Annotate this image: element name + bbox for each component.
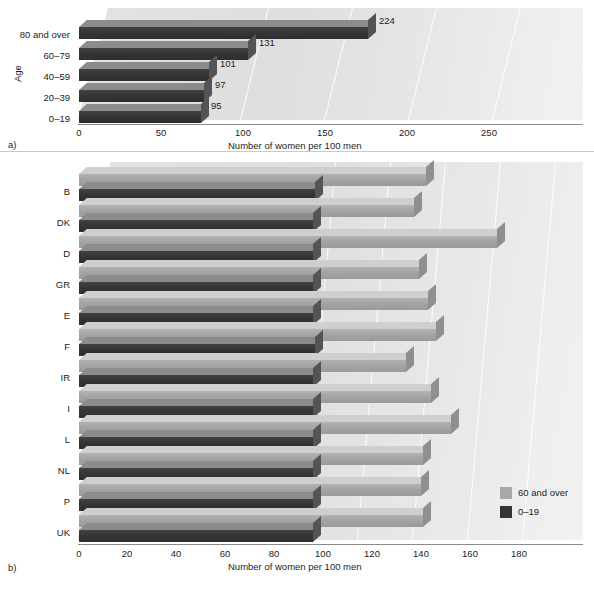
bar-top-face bbox=[79, 492, 321, 499]
panel-a-x-axis-title: Number of women per 100 men bbox=[228, 140, 362, 151]
chart-panel-b: B DK D GR E F IR I L NL P UK 60 and over… bbox=[0, 152, 594, 589]
bar-top-face bbox=[79, 523, 321, 530]
bar-80-and-over bbox=[79, 27, 368, 39]
bar-front-face bbox=[79, 90, 204, 102]
panel-a-xtick-150: 150 bbox=[317, 127, 333, 138]
bar-top-face bbox=[79, 260, 427, 267]
bar-20-39 bbox=[79, 90, 204, 102]
panel-a-xtick-50: 50 bbox=[156, 127, 167, 138]
panel-b-xtick-160: 160 bbox=[462, 548, 478, 559]
bar-top-face bbox=[79, 291, 436, 298]
bar-front-face bbox=[79, 27, 368, 39]
bar-top-face bbox=[79, 368, 321, 375]
category-label-B: B bbox=[32, 186, 70, 197]
bar-top-face bbox=[79, 477, 429, 484]
panel-a-xtick-0: 0 bbox=[76, 127, 81, 138]
category-label-NL: NL bbox=[32, 465, 70, 476]
bar-top-face bbox=[79, 337, 323, 344]
category-label-20-39: 20–39 bbox=[4, 92, 70, 103]
bar-top-face bbox=[79, 353, 414, 360]
bar-top-face bbox=[79, 41, 256, 48]
panel-b-xtick-140: 140 bbox=[413, 548, 429, 559]
bar-40-59 bbox=[79, 69, 209, 81]
panel-b-xtick-60: 60 bbox=[220, 548, 231, 559]
value-label-80-and-over: 224 bbox=[379, 15, 395, 26]
category-label-E: E bbox=[32, 310, 70, 321]
category-label-D: D bbox=[32, 248, 70, 259]
bar-top-face bbox=[79, 399, 321, 406]
category-label-0-19: 0–19 bbox=[4, 113, 70, 124]
panel-b-x-axis bbox=[78, 544, 583, 545]
panel-b-x-axis-title: Number of women per 100 men bbox=[228, 561, 362, 572]
category-label-GR: GR bbox=[32, 279, 70, 290]
bar-top-face bbox=[79, 430, 321, 437]
bar-0-19 bbox=[79, 111, 201, 123]
bar-top-face bbox=[79, 198, 422, 205]
legend-swatch-60-and-over bbox=[500, 487, 512, 499]
legend-label-60-and-over: 60 and over bbox=[518, 487, 568, 498]
bar-top-face bbox=[79, 446, 431, 453]
category-label-I: I bbox=[32, 403, 70, 414]
category-label-L: L bbox=[32, 434, 70, 445]
category-label-80-and-over: 80 and over bbox=[4, 29, 70, 40]
bar-top-face bbox=[79, 275, 321, 282]
bar-top-face bbox=[79, 244, 321, 251]
panel-a-xtick-100: 100 bbox=[235, 127, 251, 138]
category-label-P: P bbox=[32, 496, 70, 507]
value-label-0-19: 95 bbox=[211, 100, 222, 111]
category-label-60-79: 60–79 bbox=[4, 50, 70, 61]
bar-top-face bbox=[79, 415, 459, 422]
bar-top-face bbox=[79, 508, 431, 515]
category-label-IR: IR bbox=[32, 372, 70, 383]
bar-top-face bbox=[79, 104, 209, 111]
bar-top-face bbox=[79, 20, 376, 27]
panel-b-xtick-0: 0 bbox=[76, 548, 81, 559]
category-label-UK: UK bbox=[32, 527, 70, 538]
bar-front-face bbox=[79, 69, 209, 81]
bar-top-face bbox=[79, 83, 212, 90]
value-label-20-39: 97 bbox=[215, 79, 226, 90]
panel-a-xtick-250: 250 bbox=[481, 127, 497, 138]
bar-top-face bbox=[79, 306, 321, 313]
bar-top-face bbox=[79, 213, 321, 220]
panel-b-xtick-120: 120 bbox=[364, 548, 380, 559]
panel-b-xtick-20: 20 bbox=[122, 548, 133, 559]
category-label-DK: DK bbox=[32, 217, 70, 228]
panel-a-y-axis-title: Age bbox=[12, 65, 23, 82]
bar-top-face bbox=[79, 384, 439, 391]
bar-top-face bbox=[79, 229, 505, 236]
value-label-60-79: 131 bbox=[259, 37, 275, 48]
panel-b-tag: b) bbox=[8, 562, 16, 573]
panel-a-tag: a) bbox=[8, 139, 16, 150]
value-label-40-59: 101 bbox=[220, 58, 236, 69]
bar-UK-0-19 bbox=[79, 530, 313, 542]
bar-front-face bbox=[79, 530, 313, 542]
panel-a-xtick-200: 200 bbox=[399, 127, 415, 138]
bar-top-face bbox=[79, 167, 434, 174]
legend-swatch-0-19 bbox=[500, 506, 512, 518]
chart-panel-a: 80 and over 60–79 40–59 20–39 0–19 224 1… bbox=[0, 0, 594, 152]
panel-b-xtick-100: 100 bbox=[315, 548, 331, 559]
bar-top-face bbox=[79, 182, 323, 189]
panel-a-x-axis bbox=[78, 124, 583, 125]
panel-b-xtick-40: 40 bbox=[171, 548, 182, 559]
category-label-F: F bbox=[32, 341, 70, 352]
panel-b-xtick-180: 180 bbox=[511, 548, 527, 559]
bar-top-face bbox=[79, 461, 321, 468]
legend-label-0-19: 0–19 bbox=[518, 506, 539, 517]
bar-front-face bbox=[79, 111, 201, 123]
bar-top-face bbox=[79, 62, 217, 69]
bar-top-face bbox=[79, 322, 444, 329]
panel-b-xtick-80: 80 bbox=[269, 548, 280, 559]
